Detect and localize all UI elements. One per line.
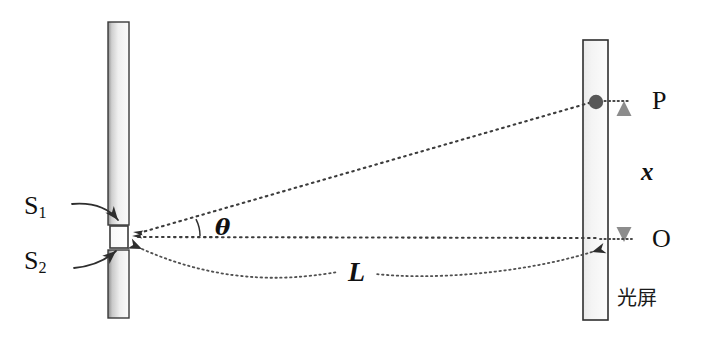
slit-label-s1-text: S <box>24 191 38 220</box>
oblique-ray-to-P <box>139 101 596 233</box>
slit-label-s2-subscript: 2 <box>38 259 46 276</box>
fringe-separation-label-x: x <box>641 159 654 184</box>
optics-diagram-canvas: S1 S2 θ L x P O 光屏 <box>0 0 702 346</box>
angle-arc-theta <box>196 220 200 236</box>
angle-label-theta: θ <box>215 215 230 238</box>
double-slit-barrier <box>108 22 129 318</box>
slit-label-s1-subscript: 1 <box>38 204 46 221</box>
screen-caption: 光屏 <box>617 288 657 308</box>
x-measure-arrow <box>617 101 632 242</box>
slit-label-s2-text: S <box>24 246 38 275</box>
barrier-upper-segment <box>108 22 129 225</box>
diagram-vector-layer <box>0 0 702 346</box>
distance-label-L: L <box>348 258 365 286</box>
screen-plate <box>583 40 608 320</box>
point-label-P: P <box>652 88 666 114</box>
slit-aperture-block <box>110 226 128 248</box>
L-measure-arc-left <box>142 249 338 278</box>
point-label-O: O <box>652 226 671 252</box>
slit-label-s1: S1 <box>24 193 47 221</box>
optical-axis-ray <box>138 237 598 238</box>
slit-label-s2: S2 <box>24 248 47 276</box>
L-measure-arc-right <box>376 252 592 276</box>
observation-screen <box>583 40 608 320</box>
bright-fringe-dot <box>589 95 603 109</box>
barrier-lower-segment <box>108 250 129 318</box>
x-arrowhead-up <box>617 101 632 116</box>
